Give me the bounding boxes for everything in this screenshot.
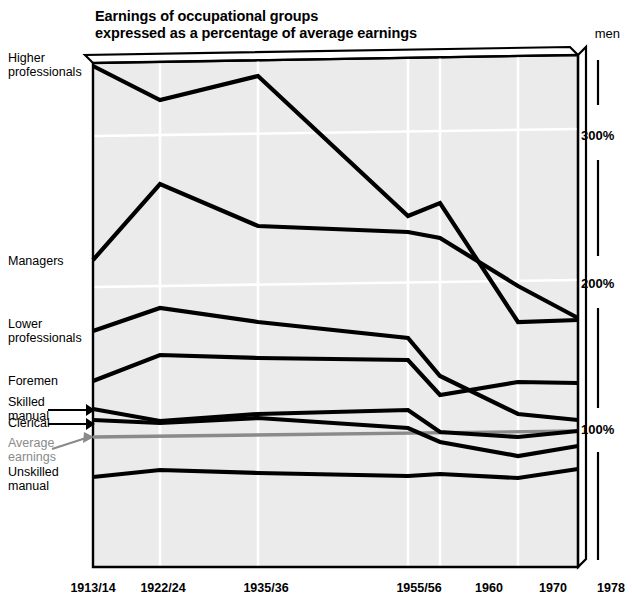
y-tick-300: 300% <box>581 128 614 143</box>
x-tick-1955-56: 1955/56 <box>396 581 441 595</box>
series-label-average-earnings: Average earnings <box>8 437 56 464</box>
y-tick-200: 200% <box>581 276 614 291</box>
x-tick-1913-14: 1913/14 <box>70 581 115 595</box>
label-line-1: Unskilled <box>8 465 59 479</box>
label-line-2: professionals <box>8 65 82 79</box>
y-tick-100: 100% <box>581 422 614 437</box>
label-line-1: Skilled <box>8 395 45 409</box>
label-line-1: Higher <box>8 51 45 65</box>
label-line-1: Foremen <box>8 374 58 388</box>
label-line-1: Lower <box>8 317 42 331</box>
label-line-2: professionals <box>8 331 82 345</box>
chart-canvas <box>0 0 632 605</box>
series-label-managers: Managers <box>8 255 64 269</box>
series-label-clerical: Clerical <box>8 417 50 431</box>
series-label-higher-professionals: Higher professionals <box>8 52 82 79</box>
label-line-1: Clerical <box>8 416 50 430</box>
chart-page: Earnings of occupational groups expresse… <box>0 0 632 605</box>
x-tick-1960: 1960 <box>475 581 503 595</box>
label-line-1: Managers <box>8 254 64 268</box>
label-line-2: manual <box>8 479 49 493</box>
x-tick-1935-36: 1935/36 <box>243 581 288 595</box>
label-line-2: earnings <box>8 450 56 464</box>
x-tick-1922-24: 1922/24 <box>140 581 185 595</box>
x-tick-1970: 1970 <box>539 581 567 595</box>
series-label-foremen: Foremen <box>8 375 58 389</box>
series-label-unskilled-manual: Unskilled manual <box>8 466 59 493</box>
x-tick-1978: 1978 <box>597 581 625 595</box>
label-line-1: Average <box>8 436 54 450</box>
series-label-lower-professionals: Lower professionals <box>8 318 82 345</box>
